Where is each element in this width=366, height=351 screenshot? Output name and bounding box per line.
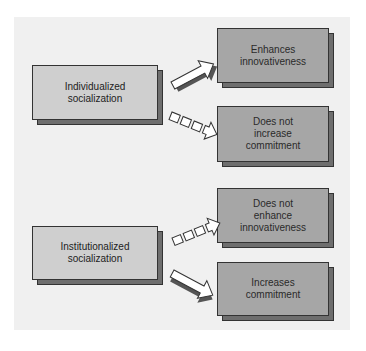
arrows-layer [0,0,366,351]
solid-arrow-down-right-icon [166,265,220,309]
dashed-arrow-down-right-icon [167,107,220,142]
dashed-arrow-up-right-icon [170,215,223,250]
solid-arrow-up-right-icon [168,54,222,98]
